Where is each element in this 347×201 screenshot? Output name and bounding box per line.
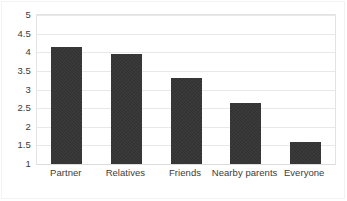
y-axis-tick-label: 2 xyxy=(26,120,31,131)
y-axis-tick-label: 1 xyxy=(26,158,31,169)
x-axis: PartnerRelativesFriendsNearby parentsEve… xyxy=(36,167,336,189)
bar xyxy=(230,103,261,164)
x-axis-category-label: Nearby parents xyxy=(212,167,278,178)
y-axis-tick-label: 3 xyxy=(26,83,31,94)
y-axis-tick-label: 2.5 xyxy=(17,102,31,113)
bar xyxy=(171,78,202,164)
x-axis-category-label: Partner xyxy=(50,167,82,178)
plot-area xyxy=(36,14,336,165)
x-axis-category-label: Friends xyxy=(169,167,201,178)
bar-chart: 54.543.532.521.51 PartnerRelativesFriend… xyxy=(0,0,347,201)
bar xyxy=(51,47,82,164)
y-axis: 54.543.532.521.51 xyxy=(0,0,35,165)
bar xyxy=(290,142,321,164)
y-axis-tick-label: 4 xyxy=(26,46,31,57)
bars-layer xyxy=(37,15,335,164)
gridline xyxy=(37,164,335,165)
x-axis-category-label: Everyone xyxy=(284,167,325,178)
bar xyxy=(111,54,142,164)
y-axis-tick-label: 4.5 xyxy=(17,27,31,38)
y-axis-tick-label: 1.5 xyxy=(17,139,31,150)
y-axis-tick-label: 5 xyxy=(26,9,31,20)
x-axis-category-label: Relatives xyxy=(106,167,146,178)
y-axis-tick-label: 3.5 xyxy=(17,64,31,75)
